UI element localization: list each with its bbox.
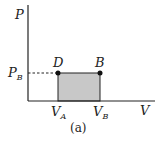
tick-label-vb-main: V — [93, 104, 102, 119]
tick-label-va-sub: A — [60, 112, 66, 121]
point-b-label: B — [95, 56, 105, 69]
x-axis-label: V — [140, 104, 149, 117]
tick-label-pb: PB — [8, 66, 23, 82]
point-d — [56, 71, 61, 76]
point-b — [98, 71, 103, 76]
point-d-label: D — [53, 56, 63, 69]
tick-label-pb-sub: B — [17, 73, 23, 82]
work-area-shading — [58, 73, 100, 101]
tick-label-pb-main: P — [8, 65, 17, 80]
tick-label-vb: VB — [93, 105, 108, 121]
tick-label-vb-sub: B — [102, 112, 108, 121]
y-axis-label: P — [15, 8, 24, 21]
figure-caption: (a) — [70, 122, 87, 134]
tick-label-va: VA — [51, 105, 66, 121]
tick-label-va-main: V — [51, 104, 60, 119]
